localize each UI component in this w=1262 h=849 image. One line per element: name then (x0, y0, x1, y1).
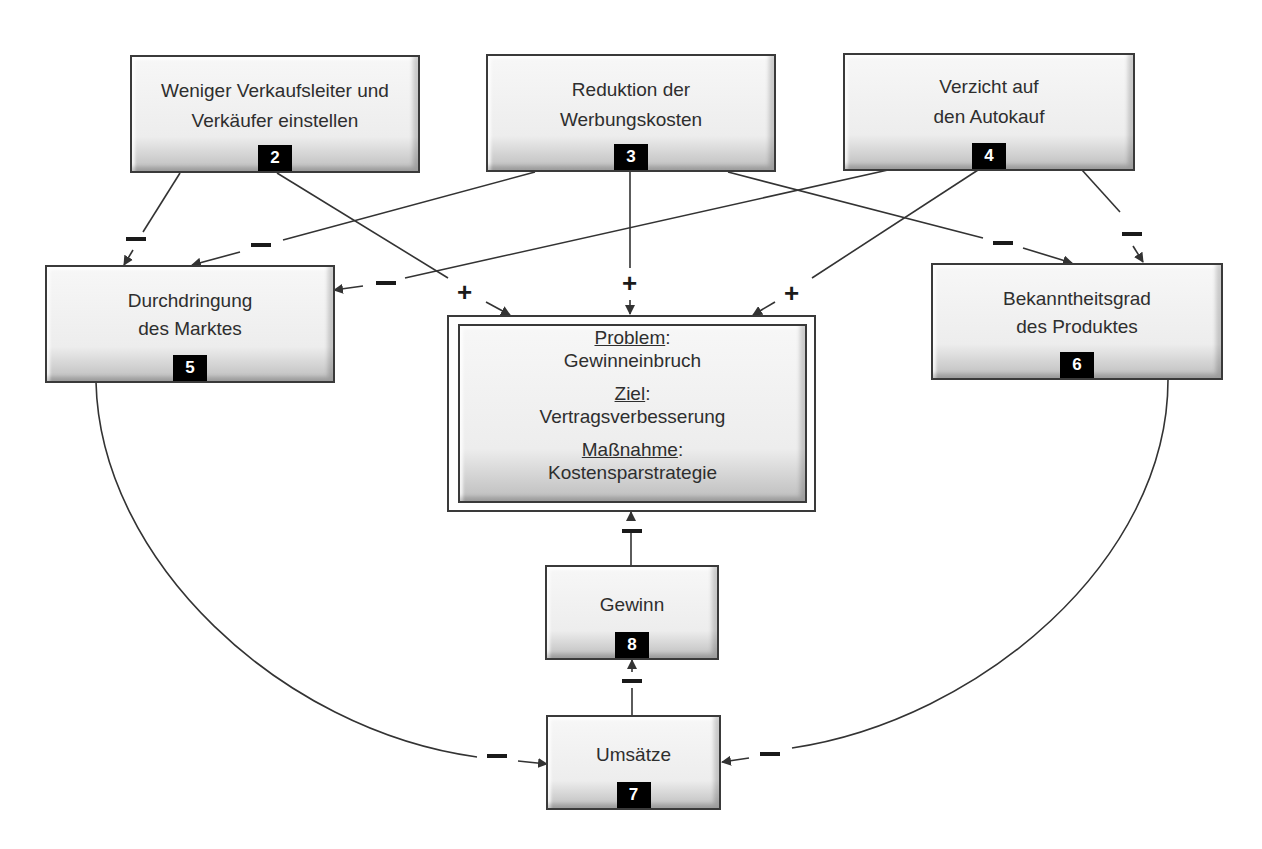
node-label-line1: Reduktion der (488, 78, 774, 102)
node-profit[interactable]: Gewinn 8 (545, 565, 719, 660)
node-label-line1: Durchdringung (47, 289, 333, 313)
node-reduce-advertising-costs[interactable]: Reduktion der Werbungskosten 3 (486, 54, 776, 172)
sign-minus-3-6 (993, 241, 1013, 245)
node-label-line2: Werbungskosten (488, 108, 774, 132)
problem-value: Gewinneinbruch (460, 349, 805, 372)
edge-3-to-6 (728, 172, 983, 238)
measure-value: Kostensparstrategie (460, 461, 805, 484)
node-product-awareness[interactable]: Bekanntheitsgrad des Produktes 6 (931, 263, 1223, 380)
node-no-car-purchase[interactable]: Verzicht auf den Autokauf 4 (843, 53, 1135, 171)
edge-3-to-5 (283, 172, 535, 240)
goal-heading: Ziel (615, 383, 646, 404)
problem-heading: Problem (594, 327, 665, 348)
node-label-line2: des Marktes (47, 317, 333, 341)
sign-plus-4-central: + (784, 280, 799, 306)
sign-minus-2-5 (126, 237, 146, 241)
node-number-badge: 3 (614, 144, 648, 170)
sign-minus-6-7 (760, 752, 780, 756)
node-label-line1: Weniger Verkaufsleiter und (132, 79, 418, 103)
edge-2-to-5 (143, 173, 180, 232)
node-number-badge: 7 (617, 782, 651, 808)
edge-4-to-5 (405, 170, 888, 278)
sign-minus-3-5 (251, 243, 271, 247)
sign-minus-5-7 (487, 754, 507, 758)
sign-minus-4-6 (1122, 232, 1142, 236)
edge-4-to-central (812, 170, 978, 278)
edge-2-to-central (277, 173, 448, 278)
node-number-badge: 8 (615, 632, 649, 658)
node-label-line2: des Produktes (933, 315, 1221, 339)
central-problem-box[interactable]: Problem: Gewinneinbruch Ziel: Vertragsve… (458, 324, 807, 503)
node-label-line2: den Autokauf (845, 105, 1133, 129)
edge-5-to-7 (96, 382, 477, 757)
goal-value: Vertragsverbesserung (460, 405, 805, 428)
node-revenue[interactable]: Umsätze 7 (546, 715, 721, 810)
sign-minus-8-central (622, 529, 642, 533)
node-number-badge: 4 (972, 143, 1006, 169)
node-number-badge: 6 (1060, 352, 1094, 378)
node-label-line1: Umsätze (548, 743, 719, 767)
node-number-badge: 5 (173, 355, 207, 381)
node-label-line1: Bekanntheitsgrad (933, 287, 1221, 311)
sign-plus-2-central: + (457, 279, 472, 305)
node-label-line2: Verkäufer einstellen (132, 109, 418, 133)
sign-minus-7-8 (622, 679, 642, 683)
edge-6-to-7 (792, 380, 1168, 748)
node-label-line1: Gewinn (547, 593, 717, 617)
node-label-line1: Verzicht auf (845, 75, 1133, 99)
node-fewer-sales-staff[interactable]: Weniger Verkaufsleiter und Verkäufer ein… (130, 55, 420, 173)
edge-4-to-6 (1082, 170, 1120, 212)
node-market-penetration[interactable]: Durchdringung des Marktes 5 (45, 265, 335, 383)
measure-heading: Maßnahme (582, 439, 678, 460)
sign-minus-4-5 (376, 281, 396, 285)
node-number-badge: 2 (258, 145, 292, 171)
sign-plus-3-central: + (622, 270, 637, 296)
